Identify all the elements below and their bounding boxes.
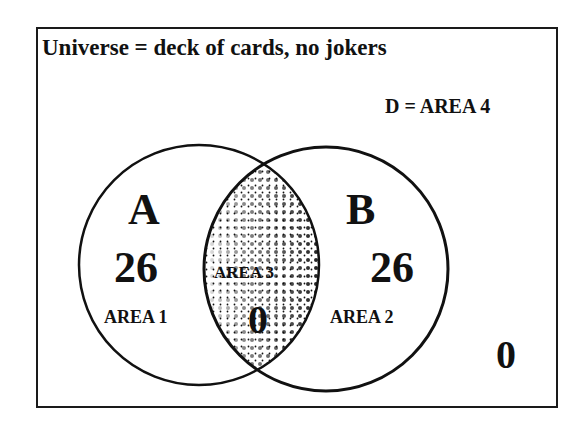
set-b-label: B — [346, 188, 375, 232]
set-a-label: A — [128, 188, 160, 232]
set-b-count: 26 — [370, 246, 414, 290]
universe-title: Universe = deck of cards, no jokers — [42, 36, 387, 59]
area-3-label: AREA 3 — [214, 264, 274, 281]
outside-count: 0 — [496, 335, 516, 375]
region-d-label: D = AREA 4 — [385, 96, 490, 116]
area-1-label: AREA 1 — [104, 308, 168, 326]
area-2-label: AREA 2 — [330, 308, 394, 326]
intersection-count: 0 — [248, 300, 268, 340]
set-a-count: 26 — [114, 246, 158, 290]
